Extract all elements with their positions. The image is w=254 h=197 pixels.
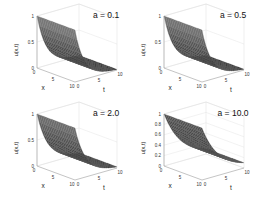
- panel-a-10-0: a = 10.000.20.40.60.81u(x,t)05100510xt: [127, 98, 254, 196]
- z-tick-label: 0.5: [28, 138, 35, 143]
- t-tick-label: 10: [244, 170, 250, 175]
- t-tick-label: 5: [225, 78, 228, 83]
- panel-a-0-5: a = 0.500.51u(x,t)05100510xt: [127, 0, 254, 98]
- x-tick-label: 0: [160, 168, 163, 173]
- t-tick-label: 10: [244, 72, 250, 77]
- z-tick-label: 0.6: [155, 132, 162, 137]
- t-axis: [75, 168, 117, 180]
- x-tick-label: 0: [160, 70, 163, 75]
- panel-title: a = 0.1: [93, 10, 120, 20]
- panel-title: a = 10.0: [218, 108, 249, 118]
- surface-plot: a = 0.100.51u(x,t)05100510xt: [0, 0, 127, 98]
- z-axis-label: u(x,t): [140, 142, 146, 155]
- t-axis: [202, 70, 244, 82]
- x-tick-label: 5: [52, 77, 55, 82]
- x-tick-label: 10: [196, 84, 202, 89]
- z-tick-label: 1: [31, 14, 34, 19]
- x-tick-label: 10: [196, 182, 202, 187]
- t-tick-label: 0: [204, 84, 207, 89]
- x-tick-label: 10: [69, 182, 75, 187]
- t-tick-label: 10: [117, 170, 123, 175]
- t-tick-label: 10: [117, 72, 123, 77]
- figure: a = 0.100.51u(x,t)05100510xt a = 0.500.5…: [0, 0, 254, 197]
- z-tick-label: 1: [31, 112, 34, 117]
- t-axis-label: t: [103, 184, 105, 191]
- panel-title: a = 2.0: [93, 108, 120, 118]
- z-tick-label: 0.2: [155, 153, 162, 158]
- x-axis-label: x: [41, 84, 45, 91]
- t-axis-label: t: [103, 86, 105, 93]
- x-tick-label: 5: [52, 175, 55, 180]
- t-axis: [75, 70, 117, 82]
- t-tick-label: 5: [98, 176, 101, 181]
- t-tick-label: 5: [225, 176, 228, 181]
- surface-plot: a = 10.000.20.40.60.81u(x,t)05100510xt: [127, 98, 254, 196]
- t-axis-label: t: [230, 86, 232, 93]
- t-axis-label: t: [230, 184, 232, 191]
- panel-title: a = 0.5: [220, 10, 247, 20]
- z-axis-label: u(x,t): [140, 44, 146, 57]
- x-tick-label: 0: [33, 168, 36, 173]
- t-tick-label: 0: [204, 182, 207, 187]
- z-axis-label: u(x,t): [13, 142, 19, 155]
- t-axis: [202, 168, 244, 180]
- panel-a-0-1: a = 0.100.51u(x,t)05100510xt: [0, 0, 127, 98]
- surface-plot: a = 2.000.51u(x,t)05100510xt: [0, 98, 127, 196]
- surface-plot: a = 0.500.51u(x,t)05100510xt: [127, 0, 254, 98]
- t-tick-label: 0: [77, 84, 80, 89]
- z-tick-label: 1: [158, 14, 161, 19]
- z-tick-label: 0.4: [155, 143, 162, 148]
- x-axis-label: x: [168, 182, 172, 189]
- x-tick-label: 5: [179, 175, 182, 180]
- t-tick-label: 5: [98, 78, 101, 83]
- z-tick-label: 1: [158, 112, 161, 117]
- z-tick-label: 0.5: [28, 40, 35, 45]
- x-axis-label: x: [41, 182, 45, 189]
- z-tick-label: 0.5: [155, 40, 162, 45]
- z-axis-label: u(x,t): [13, 44, 19, 57]
- panel-a-2-0: a = 2.000.51u(x,t)05100510xt: [0, 98, 127, 196]
- x-tick-label: 10: [69, 84, 75, 89]
- x-tick-label: 5: [179, 77, 182, 82]
- z-tick-label: 0.8: [155, 122, 162, 127]
- x-tick-label: 0: [33, 70, 36, 75]
- x-axis-label: x: [168, 84, 172, 91]
- t-tick-label: 0: [77, 182, 80, 187]
